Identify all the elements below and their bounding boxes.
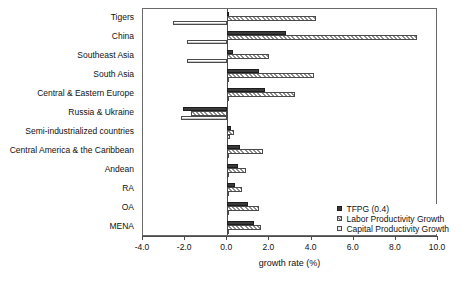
bar-capital [227, 135, 230, 139]
x-tick [184, 236, 185, 240]
legend-label-labor: Labor Productivity Growth [346, 214, 444, 224]
bar-tfpg [227, 50, 232, 54]
bar-tfpg [227, 31, 286, 35]
legend-item-labor: Labor Productivity Growth [337, 214, 449, 223]
bar-labor [227, 187, 242, 191]
plot-area [142, 8, 437, 236]
y-axis-label: Semi-industrialized countries [25, 127, 134, 136]
legend-item-capital: Capital Productivity Growth [337, 224, 449, 233]
bar-labor [227, 206, 259, 210]
chart-container: TigersChinaSoutheast AsiaSouth AsiaCentr… [0, 0, 461, 284]
bar-tfpg [227, 69, 259, 73]
y-axis-label: Southeast Asia [77, 51, 134, 60]
x-tick [142, 236, 143, 240]
bar-capital [187, 40, 227, 44]
bar-capital [181, 116, 227, 120]
bar-labor [227, 16, 316, 20]
bar-tfpg [227, 183, 234, 187]
legend-label-tfpg: TFPG (0.4) [346, 204, 389, 214]
x-tick [268, 236, 269, 240]
legend-swatch-labor-icon [337, 216, 342, 221]
bar-labor [227, 225, 261, 229]
x-tick-label: 10.0 [429, 242, 446, 252]
bar-labor [227, 35, 417, 39]
bar-labor [227, 168, 246, 172]
bar-capital [227, 192, 229, 196]
x-tick-label: -2.0 [177, 242, 192, 252]
y-axis-label: Russia & Ukraine [68, 108, 134, 117]
y-axis-label: RA [122, 184, 134, 193]
bar-labor [227, 130, 233, 134]
bar-tfpg [227, 221, 253, 225]
x-tick-label: 6.0 [347, 242, 359, 252]
legend-swatch-capital-icon [337, 226, 342, 231]
bar-tfpg [183, 107, 227, 111]
x-tick [437, 236, 438, 240]
bar-tfpg [227, 202, 248, 206]
legend-swatch-tfpg-icon [337, 206, 342, 211]
y-axis-label: Andean [105, 165, 134, 174]
y-axis-label: China [112, 32, 134, 41]
x-tick-label: 4.0 [305, 242, 317, 252]
y-axis-label: Central & Eastern Europe [37, 89, 134, 98]
bar-labor [191, 111, 227, 115]
bar-tfpg [227, 88, 265, 92]
y-axis-label: OA [122, 203, 134, 212]
x-tick-label: 2.0 [263, 242, 275, 252]
y-axis-label: MENA [109, 222, 134, 231]
bar-capital [227, 78, 229, 82]
x-tick [353, 236, 354, 240]
bar-tfpg [227, 126, 231, 130]
x-tick [395, 236, 396, 240]
bar-tfpg [227, 164, 238, 168]
x-tick [311, 236, 312, 240]
x-tick-label: -4.0 [135, 242, 150, 252]
bar-labor [227, 149, 263, 153]
bar-capital [227, 230, 229, 234]
y-axis-label: Tigers [111, 13, 134, 22]
legend-label-capital: Capital Productivity Growth [346, 224, 449, 234]
x-axis-title: growth rate (%) [142, 258, 437, 268]
chart-legend: TFPG (0.4) Labor Productivity Growth Cap… [337, 204, 449, 234]
x-tick-label: 8.0 [389, 242, 401, 252]
bar-capital [173, 21, 228, 25]
bar-capital [227, 154, 229, 158]
bar-capital [227, 211, 229, 215]
bar-labor [227, 92, 294, 96]
bar-capital [227, 173, 229, 177]
x-axis-line [142, 236, 437, 237]
bar-labor [227, 73, 313, 77]
bar-labor [227, 54, 269, 58]
y-axis-label: South Asia [93, 70, 134, 79]
bar-capital [187, 59, 227, 63]
x-tick [226, 236, 227, 240]
y-axis-label: Central America & the Caribbean [10, 146, 134, 155]
bar-tfpg [227, 145, 240, 149]
y-axis-category-labels: TigersChinaSoutheast AsiaSouth AsiaCentr… [0, 8, 138, 236]
x-tick-label: 0.0 [220, 242, 232, 252]
legend-item-tfpg: TFPG (0.4) [337, 204, 449, 213]
bar-capital [227, 97, 229, 101]
bar-tfpg [227, 12, 229, 16]
